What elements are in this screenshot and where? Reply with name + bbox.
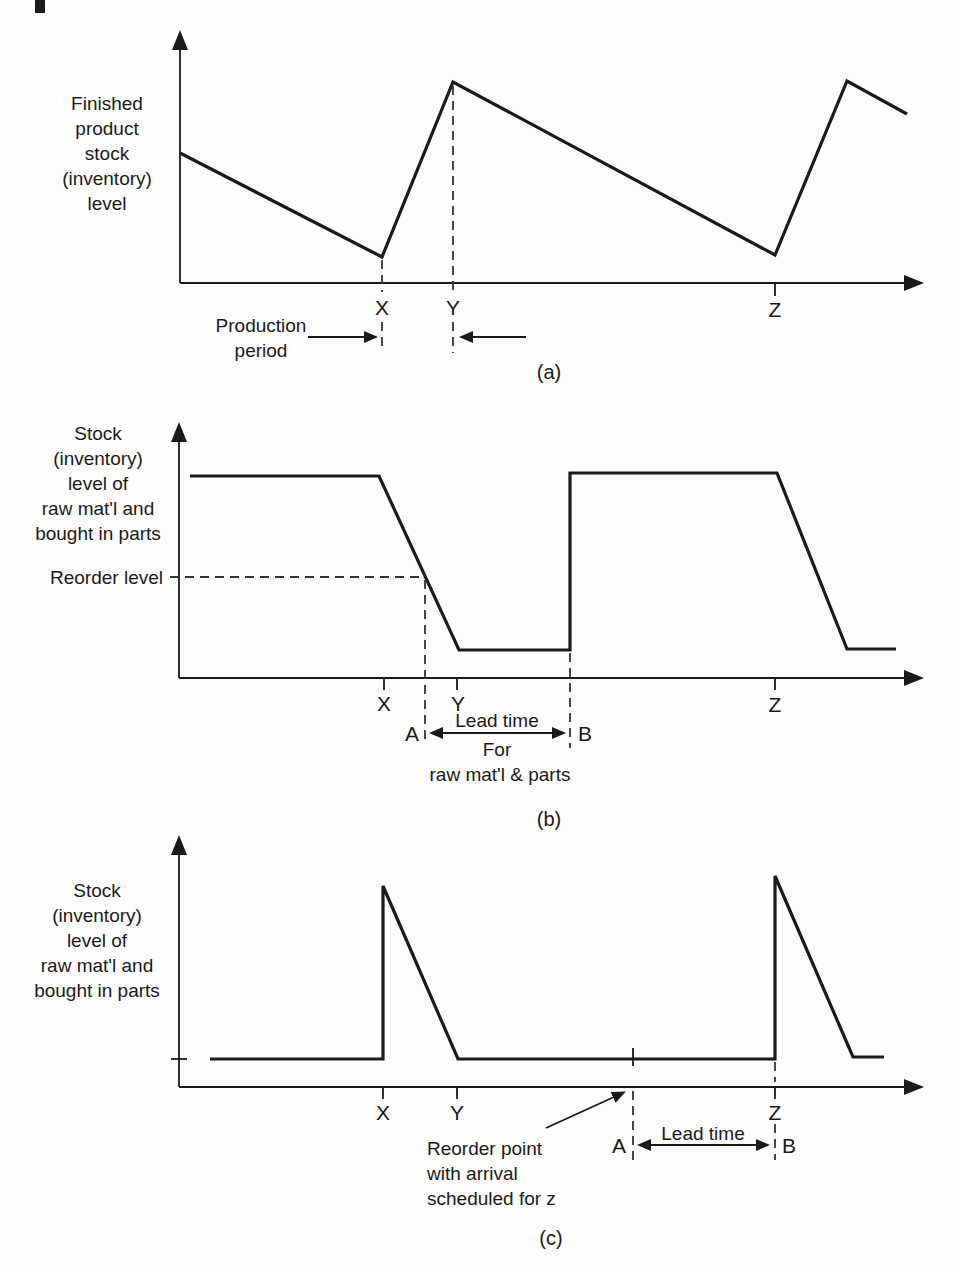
- chart-b-ylabel-line4: raw mat'l and: [42, 498, 154, 519]
- chart-c-caption: (c): [539, 1227, 562, 1249]
- chart-b-ylabel-line5: bought in parts: [35, 523, 161, 544]
- chart-c-ylabel-line5: bought in parts: [34, 980, 160, 1001]
- chart-a-ylabel-line2: product: [75, 118, 139, 139]
- production-period-label-line2: period: [235, 340, 288, 361]
- chart-b-caption: (b): [537, 808, 561, 830]
- reorder-point-note-line2: with arrival: [426, 1163, 518, 1184]
- chart-a-tick-label-z: Z: [769, 298, 782, 321]
- chart-b: Stock (inventory) level of raw mat'l and…: [35, 423, 906, 830]
- chart-b-tick-label-x: X: [377, 692, 391, 715]
- chart-c-tick-label-y: Y: [450, 1101, 464, 1124]
- chart-a-ylabel-line1: Finished: [71, 93, 143, 114]
- chart-b-lead-time-label-line2: For: [483, 739, 512, 760]
- chart-c-lead-time-label: Lead time: [661, 1123, 744, 1144]
- chart-b-lead-time-label-line3: raw mat'l & parts: [430, 764, 571, 785]
- reorder-point-note-line3: scheduled for z: [427, 1188, 556, 1209]
- chart-c-ylabel-line2: (inventory): [52, 905, 142, 926]
- book-page: Finished product stock (inventory) level…: [0, 0, 955, 1273]
- chart-a: Finished product stock (inventory) level…: [62, 48, 907, 383]
- reorder-point-note-line1: Reorder point: [427, 1138, 543, 1159]
- chart-b-tick-label-z: Z: [769, 693, 782, 716]
- reorder-level-label: Reorder level: [50, 567, 163, 588]
- chart-a-ylabel-line3: stock: [85, 143, 130, 164]
- inventory-figure: Finished product stock (inventory) level…: [0, 0, 955, 1273]
- chart-b-ylabel-line3: level of: [68, 473, 129, 494]
- chart-c-tick-label-x: X: [376, 1101, 390, 1124]
- chart-b-ylabel-line1: Stock: [74, 423, 122, 444]
- chart-b-ylabel-line2: (inventory): [53, 448, 143, 469]
- reorder-point-pointer-arrow: [546, 1097, 614, 1128]
- chart-a-caption: (a): [537, 361, 561, 383]
- chart-c-point-a-label: A: [612, 1134, 626, 1157]
- page-corner-mark: [35, 0, 45, 13]
- chart-a-tick-label-y: Y: [446, 296, 460, 319]
- chart-a-finished-stock-curve: [180, 81, 907, 257]
- chart-a-tick-label-x: X: [375, 296, 389, 319]
- chart-b-point-a-label: A: [405, 722, 419, 745]
- chart-a-ylabel-line4: (inventory): [62, 168, 152, 189]
- chart-c-ylabel-line4: raw mat'l and: [41, 955, 153, 976]
- chart-c-point-b-label: B: [782, 1134, 796, 1157]
- chart-c-ylabel-line1: Stock: [73, 880, 121, 901]
- production-period-label-line1: Production: [216, 315, 307, 336]
- chart-c-raw-material-stock-curve: [210, 876, 884, 1059]
- chart-c-tick-label-z: Z: [769, 1101, 782, 1124]
- chart-c-ylabel-line3: level of: [67, 930, 128, 951]
- chart-b-lead-time-label-line1: Lead time: [455, 710, 538, 731]
- chart-c: Stock (inventory) level of raw mat'l and…: [34, 853, 906, 1249]
- chart-b-raw-material-stock-curve: [190, 473, 896, 650]
- chart-b-point-b-label: B: [578, 722, 592, 745]
- chart-a-ylabel-line5: level: [87, 193, 126, 214]
